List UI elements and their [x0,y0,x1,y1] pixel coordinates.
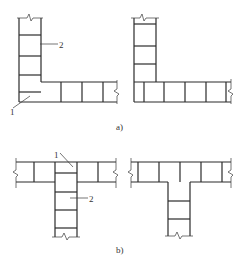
break-line-icon [165,232,193,239]
callout-1-label: 1 [54,150,59,160]
break-line-icon [114,80,119,104]
wall-junction-diagram: 2 1 a) 1 [0,0,246,270]
callout-2-label: 2 [59,40,64,50]
caption-a: a) [116,122,123,132]
break-line-icon [17,14,43,21]
break-line-icon [228,79,233,104]
callout-2-label: 2 [89,194,94,204]
caption-b: b) [116,245,124,255]
break-line-icon [52,233,80,240]
break-line-icon [131,14,159,21]
callout-1-label: 1 [10,107,15,117]
figure-b-right-t-junction [128,158,233,239]
figure-a-left-l-junction: 2 1 [10,14,119,117]
figure-b-left-t-junction: 1 2 [13,150,118,240]
figure-a-right-l-junction [131,14,233,104]
